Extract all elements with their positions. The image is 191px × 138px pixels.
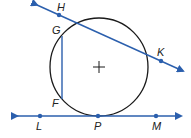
point-k (159, 59, 163, 63)
label-f: F (52, 97, 60, 109)
label-g: G (52, 24, 61, 36)
label-h: H (57, 1, 65, 13)
label-p: P (94, 120, 102, 132)
label-k: K (157, 46, 165, 58)
point-h (57, 13, 61, 17)
center-marker-icon (93, 61, 105, 73)
point-p (96, 114, 100, 118)
point-l (38, 114, 42, 118)
label-l: L (36, 120, 42, 132)
point-m (154, 114, 158, 118)
geometry-diagram: H G K F L P M (0, 0, 191, 138)
label-m: M (152, 120, 162, 132)
